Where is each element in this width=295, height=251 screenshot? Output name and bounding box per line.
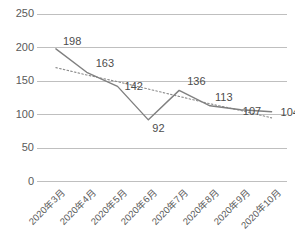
- data-point-label: 92: [152, 123, 164, 134]
- data-point-label: 107: [243, 106, 261, 117]
- data-line: [56, 49, 272, 120]
- y-axis-tick-label: 150: [2, 75, 34, 86]
- y-axis-tick-label: 50: [2, 142, 34, 153]
- data-point-label: 104: [281, 107, 295, 118]
- data-point-label: 142: [125, 81, 143, 92]
- line-chart: 250200150100500 2020年3月2020年4月2020年5月202…: [0, 0, 295, 251]
- data-point-label: 163: [96, 58, 114, 69]
- y-axis-tick-label: 100: [2, 109, 34, 120]
- data-point-label: 113: [215, 92, 233, 103]
- y-axis-tick-label: 250: [2, 8, 34, 19]
- y-axis-tick-label: 0: [2, 176, 34, 187]
- data-point-label: 136: [187, 76, 205, 87]
- data-point-label: 198: [63, 36, 81, 47]
- y-axis-tick-label: 200: [2, 42, 34, 53]
